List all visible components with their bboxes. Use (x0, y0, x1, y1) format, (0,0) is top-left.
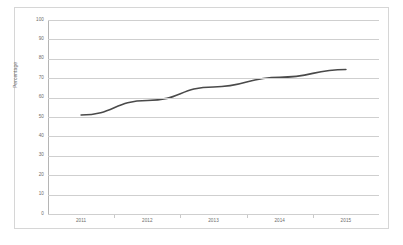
x-tick-mark-2 (180, 215, 181, 218)
x-tick-label-2012: 2012 (142, 219, 153, 224)
y-tick-label-80: 80 (18, 56, 44, 61)
gridline-y-100 (48, 20, 379, 21)
x-tick-label-2013: 2013 (208, 219, 219, 224)
y-tick-label-30: 30 (18, 153, 44, 158)
gridline-y-20 (48, 175, 379, 176)
chart-figure: Percentage 0102030405060708090100 201120… (0, 0, 403, 245)
y-tick-label-60: 60 (18, 95, 44, 100)
y-tick-label-0: 0 (18, 212, 44, 217)
gridline-y-90 (48, 39, 379, 40)
gridline-y-0 (48, 214, 379, 215)
gridline-y-30 (48, 156, 379, 157)
y-tick-label-70: 70 (18, 76, 44, 81)
y-tick-label-20: 20 (18, 173, 44, 178)
y-tick-label-100: 100 (18, 18, 44, 23)
gridline-y-70 (48, 78, 379, 79)
y-tick-label-40: 40 (18, 134, 44, 139)
x-tick-label-2015: 2015 (341, 219, 352, 224)
x-tick-label-2014: 2014 (274, 219, 285, 224)
gridline-y-50 (48, 117, 379, 118)
x-tick-label-2011: 2011 (76, 219, 86, 224)
x-tick-mark-3 (247, 215, 248, 218)
y-tick-label-90: 90 (18, 37, 44, 42)
x-tick-mark-1 (114, 215, 115, 218)
y-tick-label-10: 10 (18, 192, 44, 197)
series-line-percentage (81, 69, 346, 115)
plot-area (48, 20, 379, 214)
x-tick-mark-4 (313, 215, 314, 218)
x-axis-tick-labels: 20112012201320142015 (48, 219, 379, 229)
gridline-y-80 (48, 59, 379, 60)
y-axis-tick-labels: 0102030405060708090100 (14, 20, 44, 214)
y-tick-label-50: 50 (18, 115, 44, 120)
gridline-y-40 (48, 136, 379, 137)
gridline-y-60 (48, 98, 379, 99)
gridline-y-10 (48, 195, 379, 196)
